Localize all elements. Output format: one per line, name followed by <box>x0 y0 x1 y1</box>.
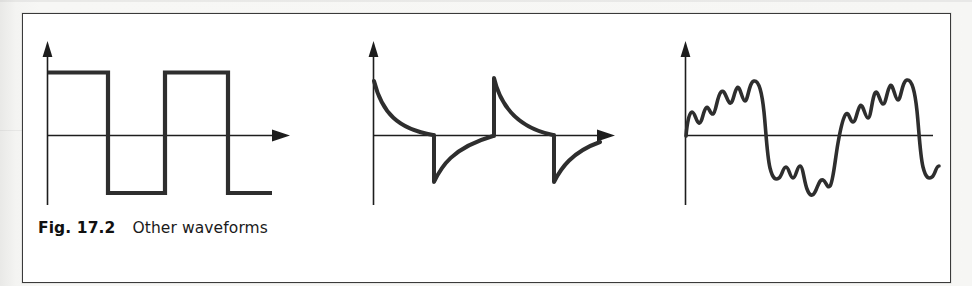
figure-root: Fig. 17.2 Other waveforms <box>0 0 972 286</box>
figure-caption-text: Other waveforms <box>132 219 268 237</box>
figure-caption-label: Fig. 17.2 <box>38 219 115 237</box>
figure-caption: Fig. 17.2 Other waveforms <box>38 219 268 237</box>
figure-panel <box>22 13 951 283</box>
